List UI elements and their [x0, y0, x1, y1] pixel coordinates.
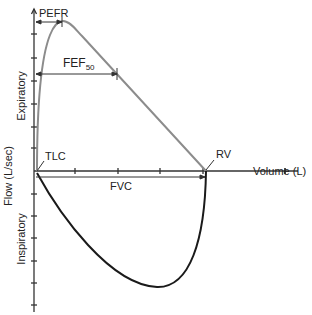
fvc-label: FVC	[110, 180, 132, 192]
fef-main-label: FEF	[63, 56, 86, 70]
rv-leader	[206, 160, 214, 170]
rv-label: RV	[216, 148, 232, 160]
expiratory-curve	[37, 21, 206, 171]
tlc-leader	[37, 161, 44, 171]
fvc-dimension	[36, 175, 205, 179]
y-axis-label: Flow (L/sec)	[2, 146, 14, 206]
fef-label: FEF50	[63, 56, 95, 72]
pefr-label: PEFR	[39, 7, 68, 19]
x-axis-label: Volume (L)	[253, 165, 306, 177]
fef-subscript-label: 50	[86, 63, 95, 72]
tlc-label: TLC	[45, 150, 66, 162]
expiratory-label: Expiratory	[15, 71, 27, 121]
flow-volume-loop-diagram: PEFR FEF50 TLC RV FVC Volume (L) Expirat…	[0, 0, 312, 315]
inspiratory-label: Inspiratory	[15, 213, 27, 265]
